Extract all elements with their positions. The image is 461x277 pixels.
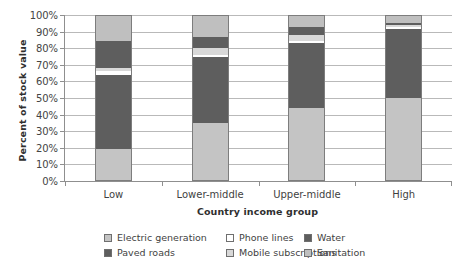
- x-axis-tick: [355, 181, 356, 186]
- y-axis-tick-label: 10%: [36, 159, 58, 170]
- x-axis-tick: [65, 181, 66, 186]
- legend-item-electric-generation[interactable]: Electric generation: [104, 232, 226, 243]
- y-axis-tick: [60, 98, 65, 99]
- y-axis-tick-label: 20%: [36, 142, 58, 153]
- legend-swatch-icon: [304, 234, 312, 242]
- y-axis-tick-label: 50%: [36, 93, 58, 104]
- bar-segment-water: [96, 41, 131, 68]
- x-axis-category-label: Lower-middle: [177, 189, 244, 200]
- y-axis-tick: [60, 131, 65, 132]
- bar-segment-electric-generation: [193, 123, 228, 180]
- legend-item-label: Phone lines: [239, 232, 294, 243]
- x-axis-tick: [259, 181, 260, 186]
- y-axis-tick: [60, 115, 65, 116]
- legend-item-label: Paved roads: [117, 247, 175, 258]
- bar-segment-electric-generation: [289, 108, 324, 180]
- legend-swatch-icon: [226, 249, 234, 257]
- y-axis-tick: [60, 32, 65, 33]
- stacked-bar-chart: Percent of stock value 0%10%20%30%40%50%…: [0, 0, 461, 277]
- plot-area: 0%10%20%30%40%50%60%70%80%90%100%LowLowe…: [64, 15, 452, 182]
- chart-legend: Electric generationPhone linesWaterPaved…: [104, 230, 404, 260]
- y-axis-tick-label: 60%: [36, 76, 58, 87]
- bar-low: [95, 15, 132, 181]
- y-axis-tick: [60, 48, 65, 49]
- legend-item-label: Water: [317, 232, 345, 243]
- y-axis-tick: [60, 65, 65, 66]
- legend-item-sanitation[interactable]: Sanitation: [304, 247, 404, 258]
- y-axis-tick-label: 70%: [36, 59, 58, 70]
- bar-segment-water: [193, 37, 228, 48]
- legend-swatch-icon: [104, 234, 112, 242]
- bar-segment-electric-generation: [386, 98, 421, 180]
- y-axis-tick: [60, 15, 65, 16]
- y-axis-tick: [60, 164, 65, 165]
- bar-segment-electric-generation: [96, 149, 131, 180]
- bar-segment-mobile-subscriptions: [193, 48, 228, 55]
- bar-segment-paved-roads: [193, 57, 228, 123]
- x-axis-tick: [162, 181, 163, 186]
- legend-swatch-icon: [304, 249, 312, 257]
- x-axis-tick: [451, 181, 452, 186]
- y-axis-tick-label: 100%: [30, 10, 58, 21]
- y-axis-tick-label: 40%: [36, 109, 58, 120]
- legend-item-water[interactable]: Water: [304, 232, 404, 243]
- x-axis-category-label: High: [392, 189, 415, 200]
- legend-item-label: Sanitation: [317, 247, 365, 258]
- x-axis-category-label: Low: [104, 189, 124, 200]
- bar-segment-water: [289, 27, 324, 34]
- legend-item-paved-roads[interactable]: Paved roads: [104, 247, 226, 258]
- legend-swatch-icon: [104, 249, 112, 257]
- y-axis-tick: [60, 148, 65, 149]
- y-axis-tick-label: 80%: [36, 43, 58, 54]
- bar-segment-paved-roads: [289, 43, 324, 108]
- legend-item-label: Electric generation: [117, 232, 207, 243]
- y-axis-title: Percent of stock value: [17, 16, 28, 186]
- x-axis-title: Country income group: [64, 206, 451, 217]
- legend-swatch-icon: [226, 234, 234, 242]
- bar-segment-sanitation: [96, 16, 131, 41]
- y-axis-tick: [60, 81, 65, 82]
- bar-segment-paved-roads: [386, 29, 421, 98]
- legend-item-phone-lines[interactable]: Phone lines: [226, 232, 304, 243]
- bar-upper-middle: [288, 15, 325, 181]
- y-axis-tick-label: 30%: [36, 126, 58, 137]
- bar-segment-sanitation: [193, 16, 228, 37]
- y-axis-tick-label: 0%: [42, 176, 58, 187]
- x-axis-category-label: Upper-middle: [273, 189, 340, 200]
- bar-high: [385, 15, 422, 181]
- bar-segment-sanitation: [289, 16, 324, 27]
- legend-item-mobile-subscriptions[interactable]: Mobile subscriptions: [226, 247, 304, 258]
- bar-lower-middle: [192, 15, 229, 181]
- y-axis-tick-label: 90%: [36, 26, 58, 37]
- bar-segment-paved-roads: [96, 75, 131, 149]
